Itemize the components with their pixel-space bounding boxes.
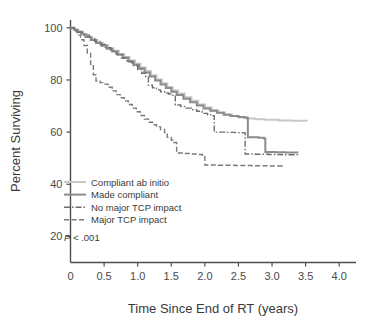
x-tick-labels-group: 00.51.01.52.02.53.03.54.0 [67,270,346,282]
x-tick-label: 1.5 [164,270,179,282]
series-curve-0 [71,28,307,121]
x-tick-label: 3.0 [264,270,279,282]
y-tick-label: 20 [50,230,62,242]
survival-chart-figure: 20406080100 00.51.01.52.02.53.03.54.0 Pe… [0,0,374,324]
x-tick-label: 1.0 [130,270,145,282]
series-curve-3 [71,28,283,166]
y-tick-label: 80 [50,74,62,86]
legend-label-1: Made compliant [91,189,158,200]
y-tick-label: 40 [50,178,62,190]
x-tick-label: 0.5 [96,270,111,282]
x-axis-title: Time Since End of RT (years) [128,301,298,316]
axes-group [71,20,357,263]
legend-label-3: Major TCP impact [91,214,167,225]
p-value-annotation: P < .001 [64,232,100,243]
y-tick-labels-group: 20406080100 [44,22,62,243]
p-value-number: < .001 [70,232,99,243]
y-tick-label: 60 [50,126,62,138]
chart-canvas: 20406080100 00.51.01.52.02.53.03.54.0 Pe… [0,0,374,324]
x-tick-label: 2.5 [231,270,246,282]
x-tick-label: 2.0 [197,270,212,282]
legend-label-0: Compliant ab initio [91,177,169,188]
legend: Compliant ab initioMade compliantNo majo… [64,177,182,226]
y-tick-label: 100 [44,22,62,34]
series-curve-1 [71,28,298,153]
series-curve-2 [71,28,298,155]
y-axis-title: Percent Surviving [8,90,23,192]
legend-label-2: No major TCP impact [91,202,182,213]
x-tick-label: 4.0 [332,270,347,282]
x-tick-label: 3.5 [298,270,313,282]
x-tick-label: 0 [67,270,73,282]
series-curves-group [71,28,307,166]
